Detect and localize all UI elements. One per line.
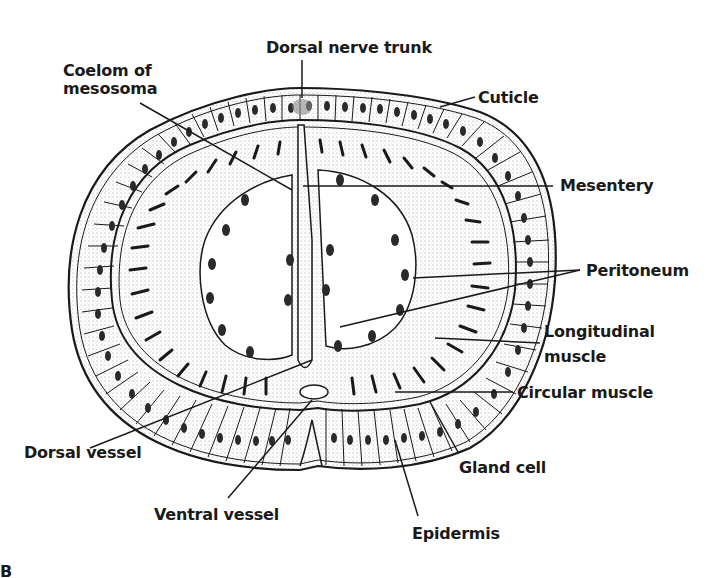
label-coelom-of-mesosoma-line1: Coelom of — [63, 61, 151, 80]
label-gland-cell: Gland cell — [459, 458, 546, 477]
panel-letter: B — [0, 562, 12, 578]
label-longitudinal-muscle-line1: Longitudinal — [544, 322, 655, 341]
diagram-canvas: Dorsal nerve trunk Coelom of mesosoma Cu… — [0, 0, 727, 578]
label-dorsal-nerve-trunk: Dorsal nerve trunk — [266, 38, 432, 57]
label-circular-muscle: Circular muscle — [517, 383, 653, 402]
dorsal-nerve-trunk — [292, 99, 312, 115]
label-longitudinal-muscle-line2: muscle — [544, 347, 606, 366]
label-coelom-of-mesosoma-line2: mesosoma — [63, 79, 157, 98]
label-peritoneum: Peritoneum — [586, 261, 689, 280]
label-cuticle: Cuticle — [478, 88, 539, 107]
ventral-vessel — [300, 385, 328, 399]
label-epidermis: Epidermis — [412, 524, 500, 543]
label-ventral-vessel: Ventral vessel — [154, 505, 279, 524]
label-mesentery: Mesentery — [560, 176, 654, 195]
label-dorsal-vessel: Dorsal vessel — [24, 443, 142, 462]
